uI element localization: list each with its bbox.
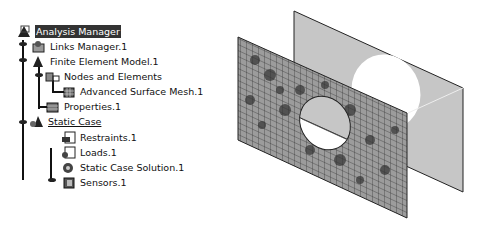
specification-tree: Analysis Manager Links Manager.1 Finite … [0,0,215,227]
tree-node-label: Static Case [47,115,102,128]
expand-toggle[interactable] [19,42,27,46]
tree-node-label: Analysis Manager [35,25,121,38]
tree-node-label: Restraints.1 [79,131,138,144]
expand-toggle[interactable] [35,73,43,77]
links-manager-icon [31,40,46,53]
restraints-icon [61,131,76,144]
tree-node-label: Nodes and Elements [63,70,163,83]
tree-node-properties[interactable]: Properties.1 [45,99,122,113]
tree-connector [50,148,52,180]
tree-node-label: Sensors.1 [79,176,128,189]
tree-node-label: Finite Element Model.1 [49,55,160,68]
tree-node-loads[interactable]: Loads.1 [61,145,118,159]
tree-node-links-manager[interactable]: Links Manager.1 [31,39,128,53]
sensors-icon [61,176,76,189]
tree-node-advanced-surface-mesh[interactable]: Advanced Surface Mesh.1 [61,84,204,98]
nodes-elements-icon [45,70,60,83]
surface-mesh-icon [61,85,76,98]
tree-node-label: Loads.1 [79,146,118,159]
loads-icon [61,146,76,159]
tree-node-nodes-elements[interactable]: Nodes and Elements [45,69,163,83]
tree-node-label: Links Manager.1 [49,40,128,53]
meshed-plate-model [218,0,478,227]
properties-icon [45,100,60,113]
tree-node-label: Properties.1 [63,100,122,113]
finite-element-model-icon [31,55,46,68]
expand-toggle[interactable] [19,58,27,62]
tree-node-finite-element-model[interactable]: Finite Element Model.1 [31,54,160,68]
tree-node-label: Static Case Solution.1 [79,161,185,174]
tree-node-analysis-manager[interactable]: Analysis Manager [17,24,121,38]
tree-connector [38,64,40,109]
tree-node-static-case[interactable]: Static Case [29,114,102,128]
expand-toggle[interactable] [19,120,27,124]
tree-node-sensors[interactable]: Sensors.1 [61,175,128,189]
3d-viewport[interactable] [218,0,478,227]
static-case-icon [29,115,44,128]
analysis-manager-icon [17,25,32,38]
tree-node-static-case-solution[interactable]: Static Case Solution.1 [61,160,185,174]
expand-toggle[interactable] [48,178,56,182]
tree-node-label: Advanced Surface Mesh.1 [79,85,204,98]
solution-icon [61,161,76,174]
tree-node-restraints[interactable]: Restraints.1 [61,130,138,144]
